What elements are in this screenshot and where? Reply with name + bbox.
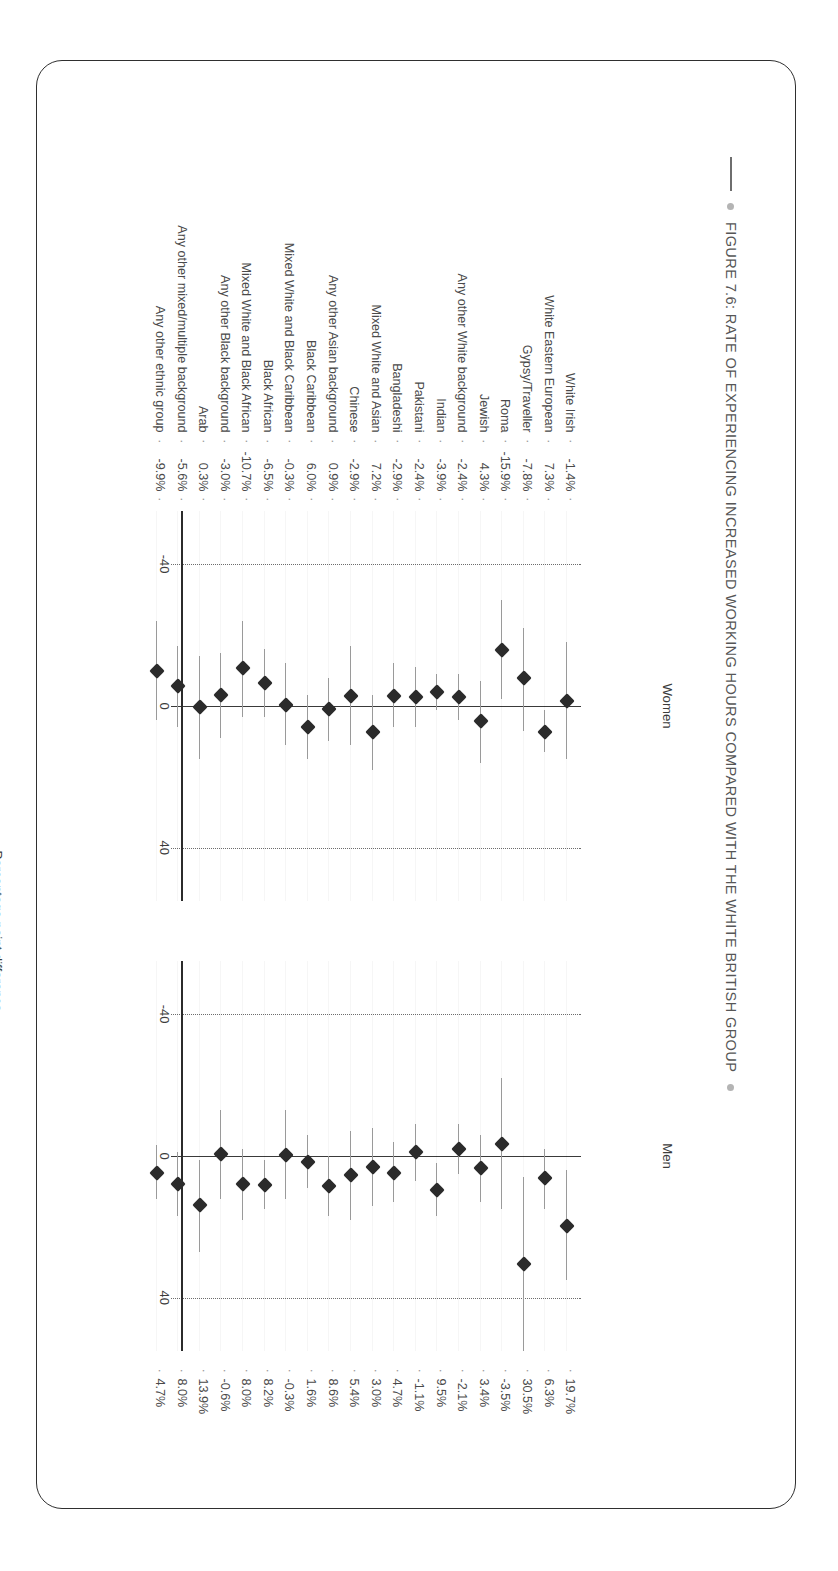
value-label-row: 0.3%· [192,449,214,501]
value-label-row: -2.9%· [343,449,365,501]
value-tick-dot-icon: · [349,498,360,502]
value-label: -10.7% [239,452,253,492]
data-point-marker [494,642,510,658]
x-tick-label: 0 [157,1152,172,1159]
data-point-marker [170,1177,186,1193]
value-label-row: -10.7%· [236,449,258,501]
value-tick-dot-icon: · [198,1369,209,1373]
data-point-marker [430,684,446,700]
value-label: -2.9% [347,459,361,492]
value-label-row: -2.4%· [408,449,430,501]
data-point-marker [430,1182,446,1198]
value-tick-dot-icon: · [284,498,295,502]
x-axis-line [181,961,183,1351]
value-label-row: -9.9%· [149,449,171,501]
value-tick-dot-icon: · [306,1369,317,1373]
panel-women: Women -40040 [147,511,677,901]
category-tick-dot-icon: · [241,440,252,444]
value-label-row: -2.9%· [387,449,409,501]
data-point-marker [451,1141,467,1157]
value-tick-dot-icon: · [219,498,230,502]
category-tick-dot-icon: · [565,440,576,444]
data-point-marker [278,697,294,713]
value-tick-dot-icon: · [370,498,381,502]
value-tick-dot-icon: · [457,498,468,502]
zero-line [171,706,581,707]
panel-men: Men -40040 [147,961,677,1351]
value-label: -6.5% [261,459,275,492]
category-gridline [199,961,200,1351]
value-tick-dot-icon: · [154,498,165,502]
value-tick-dot-icon: · [414,1369,425,1373]
value-label: 6.0% [304,463,318,492]
data-point-marker [343,1167,359,1183]
value-label-row: ·8.2% [257,1369,279,1421]
data-point-marker [408,690,424,706]
category-row: Pakistani· [408,211,430,443]
page-title: FIGURE 7.6: RATE OF EXPERIENCING INCREAS… [723,222,739,1072]
data-point-marker [235,1177,251,1193]
value-label-row: ·8.0% [236,1369,258,1421]
value-label: 13.9% [196,1379,210,1415]
value-label: -5.6% [175,459,189,492]
value-label-row: -3.9%· [430,449,452,501]
value-tick-dot-icon: · [414,498,425,502]
category-label: Mixed White and Black African [239,262,253,432]
value-label: 8.6% [326,1379,340,1408]
value-tick-dot-icon: · [198,498,209,502]
value-label: -0.3% [282,1379,296,1412]
category-label: Mixed White and Black Caribbean [282,243,296,433]
value-label: 8.0% [175,1379,189,1408]
value-label-row: ·6.3% [538,1369,560,1421]
category-row: Black Caribbean· [300,211,322,443]
value-label: 0.3% [196,463,210,492]
value-label: 3.4% [477,1379,491,1408]
plot-area-women: -40040 [171,511,581,901]
value-label: -2.4% [412,459,426,492]
category-label: Any other mixed/multiple background [175,225,189,432]
value-label-row: -1.4%· [559,449,581,501]
data-point-marker [365,724,381,740]
category-label: White Eastern European [542,295,556,432]
value-label: -3.5% [498,1379,512,1412]
value-tick-dot-icon: · [262,1369,273,1373]
value-tick-dot-icon: · [478,1369,489,1373]
category-label: Any other Black background [218,275,232,433]
value-tick-dot-icon: · [241,498,252,502]
value-tick-dot-icon: · [392,1369,403,1373]
value-label-row: ·30.5% [516,1369,538,1421]
value-label-row: ·13.9% [192,1369,214,1421]
data-point-marker [365,1159,381,1175]
value-tick-dot-icon: · [522,1369,533,1373]
value-label-row: ·5.4% [343,1369,365,1421]
category-tick-dot-icon: · [500,440,511,444]
category-tick-dot-icon: · [262,440,273,444]
category-gridline [501,511,502,901]
category-gridline [264,961,265,1351]
category-row: Mixed White and Asian· [365,211,387,443]
value-label: -7.8% [520,459,534,492]
x-tick-label: 40 [157,841,172,855]
value-label-row: -7.8%· [516,449,538,501]
value-label-row: -6.5%· [257,449,279,501]
x-tick-label: 40 [157,1291,172,1305]
x-axis-line [181,511,183,901]
category-label: Any other Asian background [326,275,340,433]
panel-title-women: Women [660,511,675,901]
data-point-marker [149,663,165,679]
category-label: Black Caribbean [304,340,318,432]
category-row: Roma· [495,211,517,443]
value-label: -0.6% [218,1379,232,1412]
value-label-row: ·3.4% [473,1369,495,1421]
category-label: Chinese [347,386,361,432]
value-tick-dot-icon: · [284,1369,295,1373]
category-row: Black African· [257,211,279,443]
category-gridline [544,511,545,901]
category-tick-dot-icon: · [543,440,554,444]
value-label: -2.1% [455,1379,469,1412]
reference-line [171,1014,581,1015]
category-tick-dot-icon: · [176,440,187,444]
category-label: Roma [498,399,512,433]
category-tick-dot-icon: · [284,440,295,444]
value-label: 6.3% [542,1379,556,1408]
